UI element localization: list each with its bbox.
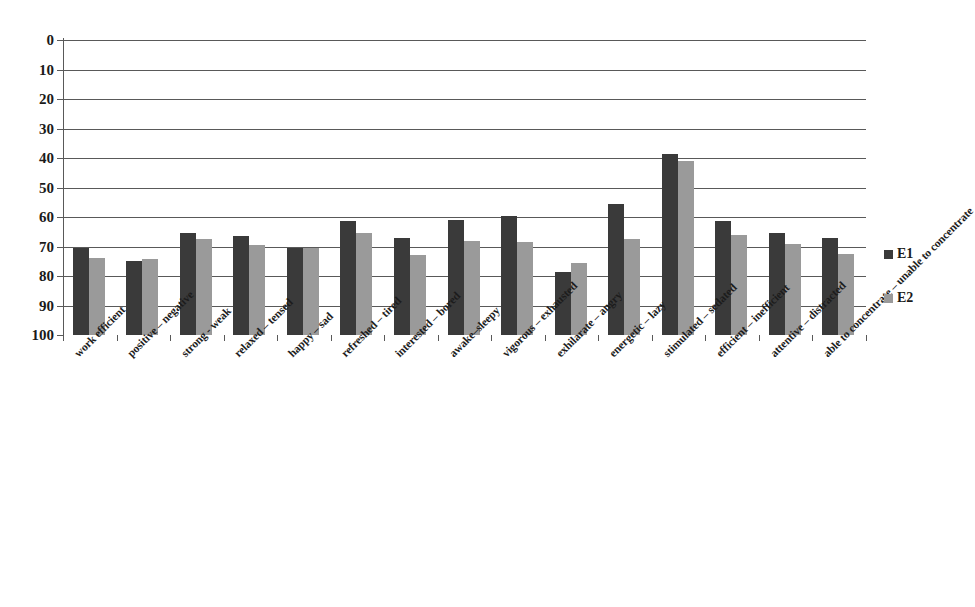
bar-e2 [731, 235, 747, 335]
bar-e1 [608, 204, 624, 335]
legend-swatch-e1 [884, 250, 893, 259]
x-axis-tick [866, 335, 867, 341]
bar-e2 [571, 263, 587, 335]
legend-swatch-e2 [884, 294, 893, 303]
bar-e2 [89, 258, 105, 335]
y-axis-tick-label: 60 [14, 209, 54, 225]
bar-e2 [142, 259, 158, 335]
y-axis-tick-label: 90 [14, 298, 54, 314]
x-axis-tick [759, 335, 760, 341]
bar-e1 [126, 261, 142, 335]
y-axis-tick-label: 100 [14, 327, 54, 343]
bar-e1 [822, 238, 838, 335]
x-axis-tick [170, 335, 171, 341]
bar-e2 [303, 248, 319, 335]
bar-e1 [340, 221, 356, 335]
bar-e2 [785, 244, 801, 335]
legend-label-e1: E1 [897, 247, 913, 261]
y-axis-tick-label: 20 [14, 91, 54, 107]
bar-e1 [448, 220, 464, 335]
bar-e2 [196, 239, 212, 335]
bar-e2 [678, 161, 694, 335]
bar-e1 [394, 238, 410, 335]
legend-label-e2: E2 [897, 291, 913, 305]
bar-e2 [464, 241, 480, 335]
x-axis-tick [438, 335, 439, 341]
x-axis-tick [598, 335, 599, 341]
y-axis-tick-label: 40 [14, 150, 54, 166]
legend-item-e2: E2 [884, 290, 944, 306]
x-axis-tick [277, 335, 278, 341]
x-axis-tick [545, 335, 546, 341]
x-axis-tick [705, 335, 706, 341]
y-axis-tick-label: 50 [14, 180, 54, 196]
bar-e1 [555, 272, 571, 335]
x-axis-tick [384, 335, 385, 341]
bar-e2 [410, 255, 426, 335]
bar-e1 [233, 236, 249, 335]
y-axis-tick-label: 10 [14, 62, 54, 78]
bar-e2 [249, 245, 265, 335]
x-axis-tick [331, 335, 332, 341]
bar-e1 [73, 248, 89, 335]
x-axis-tick [63, 335, 64, 341]
x-axis-tick [652, 335, 653, 341]
bar-e1 [769, 233, 785, 335]
legend-item-e1: E1 [884, 246, 944, 262]
x-axis-tick [117, 335, 118, 341]
y-axis-tick-label: 80 [14, 268, 54, 284]
bar-e2 [517, 242, 533, 335]
bar-e1 [180, 233, 196, 335]
bars-layer [63, 40, 866, 335]
y-axis-tick-label: 70 [14, 239, 54, 255]
bar-e2 [356, 233, 372, 335]
bar-e2 [624, 239, 640, 335]
bar-e1 [501, 216, 517, 335]
y-axis-tick-label: 0 [14, 32, 54, 48]
chart-legend: E1 E2 [884, 246, 944, 334]
bar-e1 [715, 221, 731, 335]
bar-e1 [662, 154, 678, 335]
bar-e1 [287, 248, 303, 335]
x-axis-tick [224, 335, 225, 341]
x-axis-tick [491, 335, 492, 341]
x-axis-tick [812, 335, 813, 341]
y-axis-tick-label: 30 [14, 121, 54, 137]
bar-e2 [838, 254, 854, 335]
